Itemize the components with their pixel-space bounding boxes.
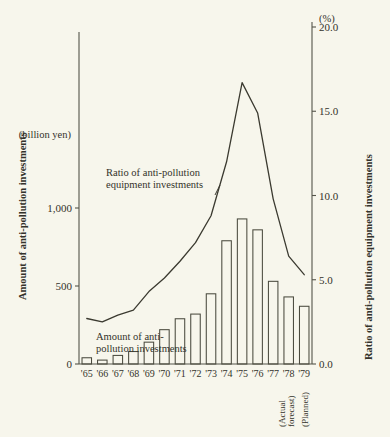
chart-canvas: 05001,0000.05.010.015.020.0(billion yen)…	[0, 0, 390, 437]
x-axis-year-label: '72	[190, 368, 202, 379]
bar-y67	[113, 355, 123, 364]
bar-rect	[284, 297, 294, 364]
bar-y76	[253, 230, 263, 364]
x-axis-year-label: '69	[143, 368, 155, 379]
bar-rect	[82, 358, 92, 364]
right-axis-title: Ratio of anti-pollution equipment invest…	[363, 154, 374, 360]
amount-series-label-line2: pollution investments	[96, 343, 187, 354]
ratio-series-label-line1: Ratio of anti-pollution	[106, 167, 201, 178]
bar-rect	[98, 360, 108, 364]
x-axis-year-label: '70	[159, 368, 171, 379]
left-axis-tick-label: 0	[67, 358, 73, 370]
amount-series-label-line1: Amount of anti-	[96, 331, 164, 342]
x-axis-year-label: '71	[174, 368, 186, 379]
bar-y65	[82, 358, 92, 364]
x-axis-year-label: '66	[96, 368, 108, 379]
bar-y79	[299, 306, 309, 364]
right-axis-tick-label: 15.0	[319, 105, 339, 117]
bar-rect	[113, 355, 123, 364]
right-axis-unit-label: (%)	[319, 13, 335, 25]
bar-rect	[299, 306, 309, 364]
left-axis-title: Amount of anti-pollution investments	[17, 132, 28, 300]
right-axis-tick-label: 5.0	[319, 274, 333, 286]
ratio-line-group	[87, 83, 304, 322]
note-78-line2: forecast)	[286, 396, 296, 427]
bar-rect	[191, 314, 201, 364]
x-axis-year-label: '77	[267, 368, 279, 379]
bar-y77	[268, 281, 278, 364]
x-axis-year-label: '75	[236, 368, 248, 379]
x-axis-year-label: '67	[112, 368, 124, 379]
x-axis-year-label: '78	[283, 368, 295, 379]
left-axis-tick-label: 1,000	[47, 202, 72, 214]
bar-y71	[175, 319, 185, 364]
x-axis-year-label: '73	[205, 368, 217, 379]
axes-group	[75, 22, 316, 364]
bar-rect	[253, 230, 263, 364]
bar-rect	[206, 294, 216, 364]
right-axis-tick-label: 0.0	[319, 358, 333, 370]
left-axis-tick-label: 500	[56, 280, 73, 292]
x-axis-year-label: '65	[81, 368, 93, 379]
x-axis-year-label: '79	[298, 368, 310, 379]
labels-group: 05001,0000.05.010.015.020.0(billion yen)…	[17, 13, 374, 427]
ratio-series-label-line2: equipment investments	[106, 179, 203, 190]
bar-rect	[237, 219, 247, 364]
bar-y66	[98, 360, 108, 364]
chart-container: 05001,0000.05.010.015.020.0(billion yen)…	[0, 0, 390, 437]
bar-y73	[206, 294, 216, 364]
note-79-line1: (Planned)	[300, 392, 310, 427]
bar-rect	[268, 281, 278, 364]
bar-y75	[237, 219, 247, 364]
bar-y78	[284, 297, 294, 364]
bar-rect	[175, 319, 185, 364]
bar-y72	[191, 314, 201, 364]
x-axis-year-label: '76	[252, 368, 264, 379]
bar-y74	[222, 241, 232, 364]
bar-rect	[222, 241, 232, 364]
x-axis-year-label: '68	[127, 368, 139, 379]
ratio-line-path	[87, 83, 304, 322]
right-axis-tick-label: 10.0	[319, 190, 339, 202]
x-axis-year-label: '74	[221, 368, 233, 379]
